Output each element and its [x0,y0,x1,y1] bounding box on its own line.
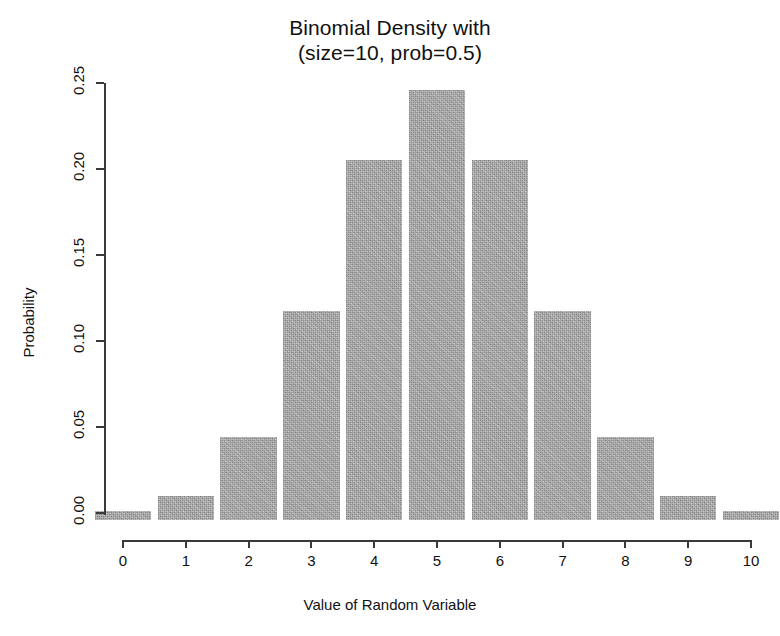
bar [472,160,529,520]
plot-area: 012345678910 0.000.050.100.150.200.25 [0,0,780,636]
x-tick-label: 9 [668,552,708,569]
y-tick-label: 0.05 [64,416,92,433]
y-tick-label: 0.00 [64,502,92,519]
bar [534,311,591,520]
bar [723,511,780,520]
y-tick-label-text: 0.10 [70,324,87,353]
x-tick-label: 1 [166,552,206,569]
y-tick-label: 0.15 [64,244,92,261]
bar [220,437,277,520]
x-tick-label: 5 [417,552,457,569]
x-tick-mark [687,540,689,548]
y-tick-label: 0.20 [64,158,92,175]
y-axis-title: Probability [8,262,48,382]
y-tick-mark [96,512,104,514]
x-tick-mark [499,540,501,548]
x-axis-title: Value of Random Variable [0,596,780,613]
x-tick-label: 7 [543,552,583,569]
y-tick-label-text: 0.15 [70,238,87,267]
y-tick-label-text: 0.25 [70,66,87,95]
x-tick-mark [185,540,187,548]
x-tick-mark [373,540,375,548]
x-tick-mark [436,540,438,548]
y-tick-mark [96,82,104,84]
y-tick-label-text: 0.05 [70,410,87,439]
y-tick-mark [96,168,104,170]
x-tick-mark [122,540,124,548]
x-tick-mark [750,540,752,548]
x-tick-mark [248,540,250,548]
x-tick-label: 2 [229,552,269,569]
x-tick-label: 0 [103,552,143,569]
y-tick-mark [96,254,104,256]
y-tick-label: 0.10 [64,330,92,347]
bar [597,437,654,520]
x-tick-mark [562,540,564,548]
y-tick-mark [96,426,104,428]
x-tick-mark [624,540,626,548]
x-tick-label: 6 [480,552,520,569]
y-axis-title-text: Probability [20,287,37,357]
bar [158,496,215,520]
x-tick-label: 3 [291,552,331,569]
x-tick-label: 4 [354,552,394,569]
x-tick-label: 8 [605,552,645,569]
y-axis-line [104,83,106,515]
x-tick-mark [310,540,312,548]
binomial-density-chart: Binomial Density with (size=10, prob=0.5… [0,0,780,636]
bar [409,90,466,520]
bar [660,496,717,520]
y-tick-label-text: 0.20 [70,152,87,181]
y-tick-label: 0.25 [64,72,92,89]
y-tick-label-text: 0.00 [70,496,87,525]
y-tick-mark [96,340,104,342]
bar [283,311,340,520]
bar [346,160,403,520]
x-tick-label: 10 [731,552,771,569]
